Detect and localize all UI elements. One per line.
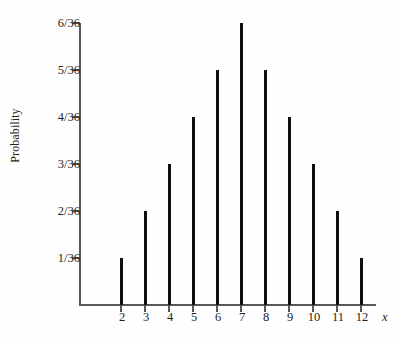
y-axis-tick-label: 3/36 — [34, 158, 80, 171]
x-axis-line — [79, 304, 376, 306]
bar — [216, 70, 219, 305]
y-axis-tick-label: 4/36 — [34, 111, 80, 124]
bar — [144, 211, 147, 305]
y-axis-tick-label: 5/36 — [34, 64, 80, 77]
bar — [264, 70, 267, 305]
y-axis-tick-label: 1/36 — [34, 252, 80, 265]
bar — [240, 23, 243, 305]
x-axis-title: x — [382, 310, 388, 325]
probability-distribution-chart: 1/362/363/364/365/366/36 23456789101112 … — [0, 0, 399, 338]
x-axis-tick-label: 12 — [347, 310, 377, 325]
bar — [168, 164, 171, 305]
y-axis-tick-label: 6/36 — [34, 17, 80, 30]
bar — [360, 258, 363, 305]
bar — [288, 117, 291, 305]
y-axis-tick-label: 2/36 — [34, 205, 80, 218]
bar — [192, 117, 195, 305]
bar — [312, 164, 315, 305]
bar — [120, 258, 123, 305]
bar — [336, 211, 339, 305]
y-axis-title: Probability — [8, 96, 23, 176]
